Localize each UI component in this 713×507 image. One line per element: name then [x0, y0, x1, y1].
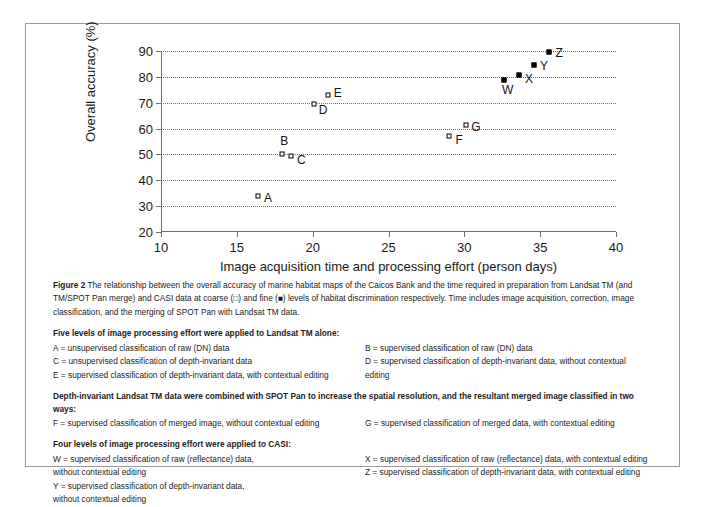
- x-tick-mark: [540, 232, 541, 237]
- key-heading: Depth-invariant Landsat TM data were com…: [53, 390, 658, 415]
- data-point-f: [447, 133, 452, 138]
- key-item: B = supervised classification of raw (DN…: [365, 342, 658, 355]
- data-point-c: [289, 154, 294, 159]
- figure-caption: Figure 2 The relationship between the ov…: [53, 279, 658, 319]
- gridline: [161, 103, 616, 104]
- key-columns: A = unsupervised classification of raw (…: [53, 342, 658, 382]
- key-item: Y = supervised classification of depth-i…: [53, 480, 365, 507]
- data-point-e: [325, 92, 330, 97]
- data-point-label-g: G: [471, 120, 480, 134]
- y-tick-label: 90: [139, 44, 153, 59]
- x-tick-mark: [616, 232, 617, 237]
- key-item: A = unsupervised classification of raw (…: [53, 342, 365, 355]
- data-point-label-c: C: [297, 153, 306, 167]
- data-point-g: [463, 123, 468, 128]
- data-point-a: [256, 193, 261, 198]
- x-tick-mark: [464, 232, 465, 237]
- key-heading: Four levels of image processing effort w…: [53, 438, 658, 450]
- x-tick-label: 10: [154, 240, 168, 255]
- y-tick-mark: [156, 154, 161, 155]
- y-tick-mark: [156, 129, 161, 130]
- key-item: D = supervised classification of depth-i…: [365, 355, 658, 382]
- data-point-label-f: F: [455, 133, 462, 147]
- figure-label: Figure 2: [53, 280, 85, 290]
- y-tick-label: 50: [139, 147, 153, 162]
- data-point-y: [532, 63, 537, 68]
- figure-caption-block: Figure 2 The relationship between the ov…: [53, 279, 658, 507]
- key-columns: F = supervised classification of merged …: [53, 417, 658, 430]
- key-column-left: W = supervised classification of raw (re…: [53, 453, 365, 507]
- y-tick-label: 30: [139, 199, 153, 214]
- key-section: Four levels of image processing effort w…: [53, 438, 658, 506]
- data-point-label-b: B: [280, 134, 288, 148]
- y-tick-mark: [156, 51, 161, 52]
- data-point-label-w: W: [502, 83, 513, 97]
- gridline: [161, 77, 616, 78]
- x-tick-mark: [313, 232, 314, 237]
- figure-caption-text: The relationship between the overall acc…: [53, 280, 634, 317]
- data-point-label-e: E: [334, 86, 342, 100]
- y-tick-label: 60: [139, 121, 153, 136]
- data-point-label-y: Y: [540, 59, 548, 73]
- figure-panel: Overall accuracy (%) 2030405060708090 10…: [25, 23, 680, 467]
- y-tick-mark: [156, 103, 161, 104]
- y-tick-label: 80: [139, 69, 153, 84]
- y-tick-mark: [156, 206, 161, 207]
- y-axis-title: Overall accuracy (%): [83, 21, 98, 142]
- gridline: [161, 206, 616, 207]
- key-heading: Five levels of image processing effort w…: [53, 327, 658, 339]
- key-column-right: B = supervised classification of raw (DN…: [365, 342, 658, 382]
- y-tick-label: 70: [139, 95, 153, 110]
- plot-area: 2030405060708090 10152025303540 ABCDEFGW…: [161, 51, 616, 232]
- key-section: Depth-invariant Landsat TM data were com…: [53, 390, 658, 430]
- y-tick-label: 40: [139, 173, 153, 188]
- key-item: G = supervised classification of merged …: [365, 417, 658, 430]
- data-point-b: [280, 151, 285, 156]
- x-tick-label: 20: [305, 240, 319, 255]
- x-tick-label: 30: [457, 240, 471, 255]
- scatter-chart: Overall accuracy (%) 2030405060708090 10…: [26, 24, 681, 276]
- data-point-label-x: X: [525, 72, 533, 86]
- key-item: F = supervised classification of merged …: [53, 417, 365, 430]
- data-point-label-a: A: [264, 191, 272, 205]
- x-tick-mark: [161, 232, 162, 237]
- key-item: X = supervised classification of raw (re…: [365, 453, 658, 466]
- gridline: [161, 154, 616, 155]
- key-item: W = supervised classification of raw (re…: [53, 453, 365, 480]
- data-point-x: [516, 73, 521, 78]
- x-axis-title: Image acquisition time and processing ef…: [161, 259, 616, 274]
- key-section: Five levels of image processing effort w…: [53, 327, 658, 382]
- data-point-label-z: Z: [556, 46, 563, 60]
- key-columns: W = supervised classification of raw (re…: [53, 453, 658, 507]
- key-column-right: X = supervised classification of raw (re…: [365, 453, 658, 480]
- y-tick-mark: [156, 180, 161, 181]
- x-tick-label: 35: [533, 240, 547, 255]
- key-item: Z = supervised classification of depth-i…: [365, 466, 658, 479]
- key-item: C = unsupervised classification of depth…: [53, 355, 365, 368]
- key-column-left: A = unsupervised classification of raw (…: [53, 342, 365, 382]
- x-tick-mark: [389, 232, 390, 237]
- data-point-z: [547, 49, 552, 54]
- data-point-d: [312, 102, 317, 107]
- data-point-label-d: D: [319, 103, 328, 117]
- figure-key: Five levels of image processing effort w…: [53, 327, 658, 506]
- y-tick-label: 20: [139, 225, 153, 240]
- key-column-left: F = supervised classification of merged …: [53, 417, 365, 430]
- gridline: [161, 180, 616, 181]
- y-axis-line: [161, 51, 162, 232]
- x-tick-mark: [237, 232, 238, 237]
- data-point-w: [501, 78, 506, 83]
- y-tick-mark: [156, 77, 161, 78]
- key-item: E = supervised classification of depth-i…: [53, 369, 365, 382]
- key-column-right: G = supervised classification of merged …: [365, 417, 658, 430]
- x-tick-label: 15: [230, 240, 244, 255]
- x-tick-label: 25: [381, 240, 395, 255]
- x-tick-label: 40: [609, 240, 623, 255]
- gridline: [161, 129, 616, 130]
